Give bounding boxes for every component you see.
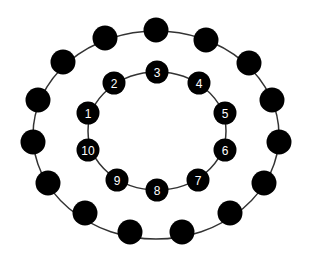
outer-node xyxy=(51,50,76,75)
outer-node xyxy=(93,26,118,51)
inner-node-label: 2 xyxy=(111,77,118,91)
inner-node-label: 9 xyxy=(114,174,121,188)
inner-node-10: 10 xyxy=(77,139,100,162)
inner-node-7: 7 xyxy=(187,169,210,192)
concentric-node-rings-diagram: 12345678910 xyxy=(0,0,312,265)
inner-node-label: 10 xyxy=(81,144,95,158)
outer-node xyxy=(260,88,285,113)
inner-node-1: 1 xyxy=(77,102,100,125)
outer-node xyxy=(252,171,277,196)
outer-node xyxy=(218,201,243,226)
inner-node-9: 9 xyxy=(106,169,129,192)
inner-node-2: 2 xyxy=(103,72,126,95)
outer-ring-nodes xyxy=(21,18,292,245)
inner-node-3: 3 xyxy=(146,61,169,84)
outer-node xyxy=(26,88,51,113)
outer-node xyxy=(144,18,169,43)
outer-node xyxy=(118,220,143,245)
inner-node-4: 4 xyxy=(188,72,211,95)
outer-node xyxy=(237,51,262,76)
inner-node-label: 1 xyxy=(85,107,92,121)
inner-node-6: 6 xyxy=(214,139,237,162)
outer-node xyxy=(267,130,292,155)
inner-node-label: 8 xyxy=(154,184,161,198)
inner-node-5: 5 xyxy=(214,102,237,125)
outer-node xyxy=(36,171,61,196)
inner-node-label: 7 xyxy=(195,174,202,188)
outer-node xyxy=(73,201,98,226)
outer-node xyxy=(194,28,219,53)
inner-ring-nodes: 12345678910 xyxy=(77,61,237,202)
outer-node xyxy=(170,220,195,245)
inner-node-label: 5 xyxy=(222,107,229,121)
inner-node-label: 6 xyxy=(222,144,229,158)
inner-node-label: 3 xyxy=(154,66,161,80)
inner-node-label: 4 xyxy=(196,77,203,91)
inner-node-8: 8 xyxy=(146,179,169,202)
outer-node xyxy=(21,130,46,155)
